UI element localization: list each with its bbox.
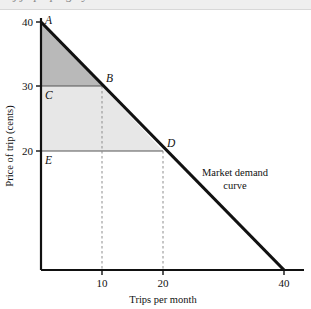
y-tick-label-30: 30 bbox=[22, 80, 34, 92]
point-label-d: D bbox=[166, 137, 176, 149]
figure-container: jj p p g y 40 30 20 10 20 40 bbox=[0, 0, 311, 309]
point-label-a: A bbox=[44, 14, 53, 26]
y-axis-title: Price of trip (cents) bbox=[4, 105, 16, 187]
x-tick-label-40: 40 bbox=[279, 277, 291, 289]
x-axis-title: Trips per month bbox=[129, 294, 197, 305]
point-label-e: E bbox=[44, 154, 52, 166]
y-tick-label-20: 20 bbox=[22, 145, 34, 157]
x-tick-label-10: 10 bbox=[97, 277, 109, 289]
demand-curve-annotation-line2: curve bbox=[223, 180, 247, 191]
demand-curve-chart: 40 30 20 10 20 40 A B C D E Market deman… bbox=[0, 0, 311, 309]
point-label-c: C bbox=[45, 89, 53, 101]
point-label-b: B bbox=[106, 72, 113, 84]
y-tick-label-40: 40 bbox=[22, 16, 34, 28]
x-tick-label-20: 20 bbox=[158, 277, 170, 289]
demand-curve-annotation-line1: Market demand bbox=[202, 167, 269, 178]
